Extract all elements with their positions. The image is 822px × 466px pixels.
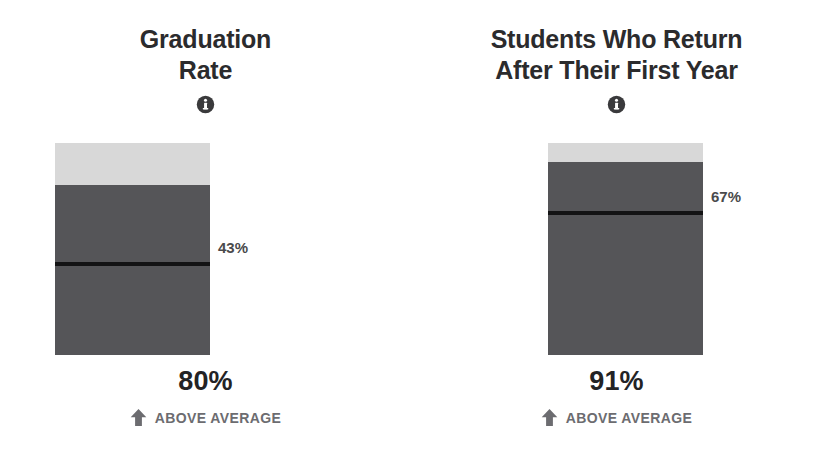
stat-panel-group: Graduation Rate 43% 80% — [0, 0, 822, 466]
gauge-fill — [548, 162, 703, 355]
comparison-row: ABOVE AVERAGE — [0, 408, 411, 427]
info-icon[interactable] — [196, 95, 215, 114]
average-marker-label: 67% — [711, 187, 741, 204]
gauge-track: 43% — [55, 143, 210, 355]
stat-value: 91% — [411, 366, 822, 397]
average-marker-line — [55, 262, 210, 266]
arrow-up-icon — [541, 408, 558, 427]
average-marker-line — [548, 211, 703, 215]
comparison-label: ABOVE AVERAGE — [155, 410, 282, 426]
comparison-label: ABOVE AVERAGE — [566, 410, 693, 426]
stat-value: 80% — [0, 366, 411, 397]
info-icon[interactable] — [607, 95, 626, 114]
arrow-up-icon — [130, 408, 147, 427]
panel-title: Students Who Return After Their First Ye… — [411, 24, 822, 86]
gauge-track: 67% — [548, 143, 703, 355]
info-icon-wrap — [411, 95, 822, 114]
panel-title: Graduation Rate — [0, 24, 411, 86]
average-marker-label: 43% — [218, 238, 248, 255]
stat-panel-student-retention: Students Who Return After Their First Ye… — [411, 0, 822, 466]
info-icon-wrap — [0, 95, 411, 114]
gauge-fill — [55, 185, 210, 355]
comparison-row: ABOVE AVERAGE — [411, 408, 822, 427]
stat-panel-graduation-rate: Graduation Rate 43% 80% — [0, 0, 411, 466]
